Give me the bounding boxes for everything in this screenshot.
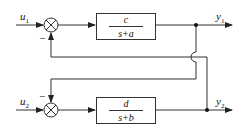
lower-summer-minus-sign: −: [39, 91, 45, 102]
y2-branch-node: [205, 108, 209, 112]
lower-block-denominator: s+b: [118, 112, 134, 123]
upper-block-denominator: s+a: [118, 28, 134, 39]
lower-block-numerator: d: [124, 98, 129, 109]
upper-transfer-block: c s+a: [96, 13, 156, 40]
upper-summer-minus-sign: −: [39, 33, 45, 44]
y1-label: y1: [216, 11, 224, 25]
u2-label: u2: [20, 96, 29, 110]
fraction-bar: [109, 26, 143, 27]
fraction-bar: [109, 110, 143, 111]
upper-block-numerator: c: [124, 14, 128, 25]
u1-label: u1: [20, 11, 29, 25]
y2-label: y2: [216, 96, 224, 110]
y1-branch-node: [194, 23, 198, 27]
lower-transfer-block: d s+b: [96, 97, 156, 124]
